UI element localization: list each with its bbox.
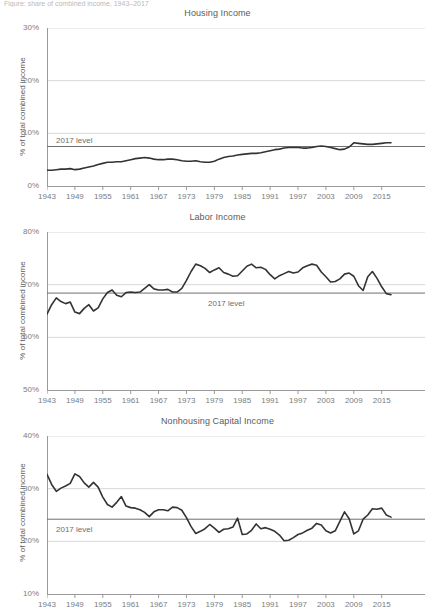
y-axis-label-nonhousing-capital-income: % of total combined income xyxy=(18,453,27,573)
plot-area-housing-income: 0%10%20%30%19431949195519611967197319791… xyxy=(47,28,425,208)
y-axis-tick-label: 20% xyxy=(5,76,39,85)
plot-area-labor-income: 50%60%70%80%1943194919551961196719731979… xyxy=(47,232,425,412)
x-axis-tick-label: 2015 xyxy=(365,396,399,405)
x-axis-tick-label: 2015 xyxy=(365,600,399,609)
y-axis-tick-label: 60% xyxy=(5,332,39,341)
y-axis-label-housing-income: % of total combined income xyxy=(18,47,27,167)
chart-svg xyxy=(47,28,425,208)
y-axis-tick-label: 30% xyxy=(5,484,39,493)
y-axis-tick-label: 30% xyxy=(5,23,39,32)
y-axis-tick-label: 50% xyxy=(5,385,39,394)
x-axis-tick-label: 2015 xyxy=(365,192,399,201)
y-axis-tick-label: 10% xyxy=(5,589,39,598)
y-axis-label-labor-income: % of total combined income xyxy=(18,251,27,371)
chart-title-nonhousing-capital-income: Nonhousing Capital Income xyxy=(0,416,435,426)
y-axis-tick-label: 40% xyxy=(5,431,39,440)
reference-line-label: 2017 level xyxy=(55,525,93,534)
plot-area-nonhousing-capital-income: 10%20%30%40%1943194919551961196719731979… xyxy=(47,436,425,614)
chart-title-housing-income: Housing Income xyxy=(0,8,435,18)
y-axis-tick-label: 10% xyxy=(5,128,39,137)
y-axis-tick-label: 70% xyxy=(5,280,39,289)
chart-panel-nonhousing-capital-income: Nonhousing Capital Income % of total com… xyxy=(0,414,435,614)
chart-panel-housing-income: Housing Income % of total combined incom… xyxy=(0,6,435,210)
chart-svg xyxy=(47,436,425,614)
y-axis-tick-label: 20% xyxy=(5,536,39,545)
reference-line-label: 2017 level xyxy=(207,299,245,308)
chart-title-labor-income: Labor Income xyxy=(0,212,435,222)
y-axis-tick-label: 80% xyxy=(5,227,39,236)
chart-svg xyxy=(47,232,425,412)
chart-panel-labor-income: Labor Income % of total combined income … xyxy=(0,210,435,414)
y-axis-tick-label: 0% xyxy=(5,181,39,190)
reference-line-label: 2017 level xyxy=(55,136,93,145)
data-line xyxy=(47,474,391,541)
